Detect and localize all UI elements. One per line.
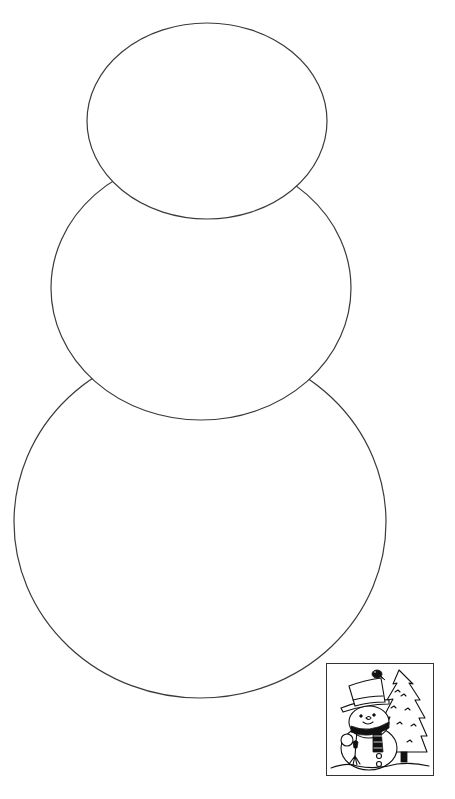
snowman-head (87, 23, 327, 219)
snowman-preview-frame: Finished snowman preview (326, 663, 434, 776)
snowman-preview-illustration (327, 664, 433, 775)
